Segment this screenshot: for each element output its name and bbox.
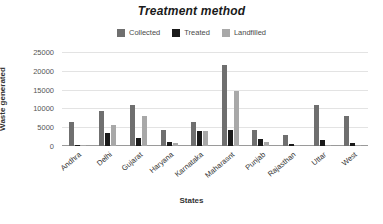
bar-collected[interactable] bbox=[344, 116, 349, 146]
x-tick-slot: Rajasthan bbox=[276, 148, 307, 190]
legend-item-landfilled[interactable]: Landfilled bbox=[222, 28, 266, 37]
x-tick-slot: Uttar bbox=[307, 148, 338, 190]
bar-treated[interactable] bbox=[75, 145, 80, 146]
x-tick-slot: Maharasnt bbox=[215, 148, 246, 190]
bar-treated[interactable] bbox=[258, 139, 263, 146]
bar-landfilled[interactable] bbox=[295, 145, 300, 146]
legend-swatch-icon bbox=[172, 29, 180, 37]
bar-treated[interactable] bbox=[136, 138, 141, 146]
x-tick-label: Delhi bbox=[95, 150, 114, 168]
bar-collected[interactable] bbox=[99, 111, 104, 146]
y-axis-title: Waste generated bbox=[0, 52, 10, 146]
bar-landfilled[interactable] bbox=[81, 145, 86, 146]
y-tick-label: 15000 bbox=[14, 85, 54, 94]
bar-treated[interactable] bbox=[228, 130, 233, 146]
legend-item-collected[interactable]: Collected bbox=[117, 28, 160, 37]
bar-landfilled[interactable] bbox=[142, 116, 147, 146]
x-tick-slot: West bbox=[337, 148, 368, 190]
bar-treated[interactable] bbox=[289, 144, 294, 146]
bar-collected[interactable] bbox=[69, 122, 74, 146]
bar-treated[interactable] bbox=[167, 142, 172, 147]
bar-treated[interactable] bbox=[105, 133, 110, 146]
x-tick-label: Andhra bbox=[59, 150, 83, 172]
y-tick-label: 25000 bbox=[14, 48, 54, 57]
bar-landfilled[interactable] bbox=[264, 142, 269, 147]
x-tick-label: Uttar bbox=[310, 150, 328, 167]
y-tick-label: 20000 bbox=[14, 66, 54, 75]
bar-group bbox=[283, 52, 300, 146]
bar-group bbox=[99, 52, 116, 146]
x-tick-label: Punjab bbox=[243, 150, 267, 172]
legend-label: Collected bbox=[129, 28, 160, 37]
chart-container: Treatment method CollectedTreatedLandfil… bbox=[0, 0, 383, 224]
y-tick-label: 0 bbox=[14, 142, 54, 151]
chart-legend: CollectedTreatedLandfilled bbox=[0, 28, 383, 37]
legend-swatch-icon bbox=[222, 29, 230, 37]
bar-landfilled[interactable] bbox=[326, 145, 331, 146]
x-tick-slot: Andhra bbox=[62, 148, 93, 190]
bar-collected[interactable] bbox=[161, 130, 166, 146]
bar-landfilled[interactable] bbox=[356, 145, 361, 146]
bar-collected[interactable] bbox=[252, 130, 257, 146]
bar-collected[interactable] bbox=[314, 105, 319, 146]
legend-label: Landfilled bbox=[234, 28, 266, 37]
legend-label: Treated bbox=[184, 28, 210, 37]
bar-landfilled[interactable] bbox=[173, 143, 178, 146]
bar-group bbox=[252, 52, 269, 146]
bar-landfilled[interactable] bbox=[111, 125, 116, 146]
bar-collected[interactable] bbox=[222, 65, 227, 146]
bar-collected[interactable] bbox=[191, 122, 196, 146]
bar-group bbox=[314, 52, 331, 146]
bar-treated[interactable] bbox=[320, 140, 325, 146]
x-axis-labels: AndhraDelhiGujaratHaryanaKarnatakaMahara… bbox=[62, 148, 368, 190]
x-tick-label: West bbox=[340, 150, 359, 168]
x-axis-title: States bbox=[0, 196, 383, 205]
bar-landfilled[interactable] bbox=[203, 131, 208, 146]
bar-group bbox=[161, 52, 178, 146]
legend-item-treated[interactable]: Treated bbox=[172, 28, 210, 37]
bar-group bbox=[191, 52, 208, 146]
bar-treated[interactable] bbox=[197, 131, 202, 146]
bar-group bbox=[344, 52, 361, 146]
y-tick-label: 10000 bbox=[14, 104, 54, 113]
legend-swatch-icon bbox=[117, 29, 125, 37]
bar-group bbox=[222, 52, 239, 146]
x-tick-label: Gujarat bbox=[120, 150, 145, 173]
y-tick-label: 5000 bbox=[14, 123, 54, 132]
chart-title: Treatment method bbox=[0, 4, 383, 18]
bar-landfilled[interactable] bbox=[234, 91, 239, 146]
bar-collected[interactable] bbox=[283, 135, 288, 146]
bar-group bbox=[130, 52, 147, 146]
bar-treated[interactable] bbox=[350, 143, 355, 146]
plot-area bbox=[62, 52, 368, 146]
bar-group bbox=[69, 52, 86, 146]
bar-collected[interactable] bbox=[130, 105, 135, 146]
bar-groups bbox=[62, 52, 368, 146]
x-tick-slot: Delhi bbox=[93, 148, 124, 190]
